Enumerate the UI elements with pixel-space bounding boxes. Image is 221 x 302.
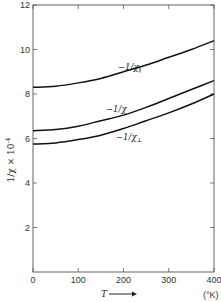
curve-label-parallel: −1/χ∥ (118, 62, 142, 73)
x-tick-label: 0 (30, 275, 35, 285)
x-axis-arrowhead-icon (132, 292, 137, 297)
y-tick-label: 4 (25, 178, 30, 188)
x-axis-label: T (101, 289, 108, 299)
susceptibility-chart: 24681012 0100200300400 −1/χ∥ −1/χ −1/χ⊥ … (0, 0, 221, 302)
curve-label-perpendicular: −1/χ⊥ (116, 132, 142, 143)
y-tick-label: 2 (25, 223, 30, 233)
y-tick-label: 10 (20, 45, 30, 55)
y-tick-label: 8 (25, 89, 30, 99)
y-axis-label: 1/χ × 10-4 (4, 137, 16, 182)
x-axis-unit: (°K) (203, 290, 219, 300)
curve-label-average: −1/χ (106, 104, 127, 114)
x-tick-label: 100 (71, 275, 86, 285)
x-tick-label: 200 (116, 275, 131, 285)
curves (33, 41, 214, 144)
y-tick-label: 12 (20, 0, 30, 10)
x-tick-label: 300 (161, 275, 176, 285)
x-axis-ticks: 0100200300400 (30, 5, 221, 285)
x-tick-label: 400 (206, 275, 221, 285)
y-tick-label: 6 (25, 134, 30, 144)
